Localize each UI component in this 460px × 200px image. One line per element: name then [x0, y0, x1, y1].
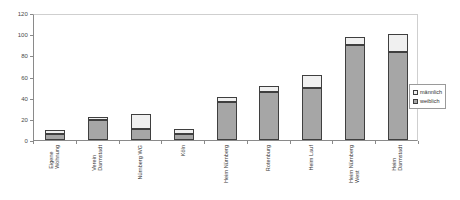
bar-group: [388, 34, 408, 140]
legend-item-label: männlich: [420, 89, 442, 95]
bar-segment-maennlich: [388, 34, 408, 52]
bars-container: [34, 15, 417, 140]
bar-group: [259, 86, 279, 140]
chart-legend: männlichweiblich: [409, 84, 446, 109]
bar-segment-weiblich: [174, 134, 194, 140]
bar-segment-weiblich: [302, 88, 322, 140]
x-axis-label-line: Rotenburg: [265, 145, 271, 171]
bar-segment-weiblich: [88, 120, 108, 140]
bar-segment-maennlich: [259, 86, 279, 92]
x-axis-tick-mark: [375, 141, 376, 144]
bar-group: [45, 130, 65, 140]
bar-segment-maennlich: [217, 97, 237, 102]
bar-segment-maennlich: [131, 114, 151, 130]
x-axis-tick-mark: [119, 141, 120, 144]
x-axis-label-line: Heim: [390, 145, 396, 171]
bar-segment-weiblich: [45, 134, 65, 140]
x-axis-tick-mark: [161, 141, 162, 144]
x-axis-label-line: Köln: [180, 145, 186, 156]
bar-segment-weiblich: [131, 129, 151, 140]
x-axis-category-label: EigeneWohnung: [48, 145, 60, 169]
bar-segment-maennlich: [88, 117, 108, 120]
x-axis-tick-mark: [247, 141, 248, 144]
legend-item: weiblich: [413, 97, 442, 105]
bar-group: [302, 75, 322, 140]
x-axis-tick-mark: [76, 141, 77, 144]
bar-segment-maennlich: [45, 130, 65, 133]
y-axis-tick-label: 40: [0, 96, 28, 102]
bar-segment-weiblich: [259, 92, 279, 140]
bar-group: [345, 37, 365, 140]
x-axis-label-line: Nürnberg WG: [137, 145, 143, 179]
y-axis-tick-labels: 020406080100120: [0, 14, 28, 141]
x-axis-tick-mark: [332, 141, 333, 144]
y-axis-tick-label: 60: [0, 75, 28, 81]
x-axis-tick-mark: [418, 141, 419, 144]
legend-item-label: weiblich: [420, 98, 440, 104]
x-axis-category-label: Heim Nürnberg: [222, 145, 228, 183]
x-axis-tick-mark: [33, 141, 34, 144]
bar-chart: 020406080100120 EigeneWohnungVereinDarms…: [0, 0, 460, 200]
x-axis-category-label: HeimDarmstadt: [390, 145, 402, 171]
x-axis-category-label: Nürnberg WG: [137, 145, 143, 179]
x-axis-label-line: Wohnung: [54, 145, 60, 169]
x-axis-tick-mark: [290, 141, 291, 144]
x-axis-label-line: Heim Nürnberg: [222, 145, 228, 183]
bar-group: [217, 97, 237, 140]
y-axis-tick-label: 100: [0, 32, 28, 38]
y-axis-tick-label: 20: [0, 117, 28, 123]
plot-area: [33, 14, 418, 141]
x-axis-label-line: Darmstadt: [97, 145, 103, 171]
bar-segment-maennlich: [345, 37, 365, 44]
x-axis-category-label: Rotenburg: [265, 145, 271, 171]
bar-group: [131, 114, 151, 140]
bar-segment-weiblich: [388, 52, 408, 140]
legend-item: männlich: [413, 88, 442, 96]
y-axis-tick-label: 120: [0, 11, 28, 17]
bar-segment-maennlich: [302, 75, 322, 88]
bar-group: [174, 129, 194, 140]
x-axis-label-line: Darmstadt: [397, 145, 403, 171]
x-axis-label-line: Heim Nürnberg: [348, 145, 354, 183]
x-axis-category-label: Heim Lauf: [308, 145, 314, 171]
x-axis-tick-mark: [204, 141, 205, 144]
x-axis-category-label: VereinDarmstadt: [91, 145, 103, 171]
bar-segment-maennlich: [174, 129, 194, 133]
x-axis-category-label: Heim NürnbergWest: [348, 145, 360, 183]
x-axis-label-line: West: [354, 145, 360, 183]
bar-group: [88, 117, 108, 140]
x-axis-category-labels: EigeneWohnungVereinDarmstadtNürnberg WGK…: [33, 145, 418, 200]
y-axis-tick-label: 80: [0, 53, 28, 59]
x-axis-category-label: Köln: [180, 145, 186, 156]
legend-swatch-icon: [413, 99, 418, 104]
legend-swatch-icon: [413, 90, 418, 95]
bar-segment-weiblich: [217, 102, 237, 140]
bar-segment-weiblich: [345, 45, 365, 140]
y-axis-tick-label: 0: [0, 138, 28, 144]
x-axis-label-line: Heim Lauf: [308, 145, 314, 171]
